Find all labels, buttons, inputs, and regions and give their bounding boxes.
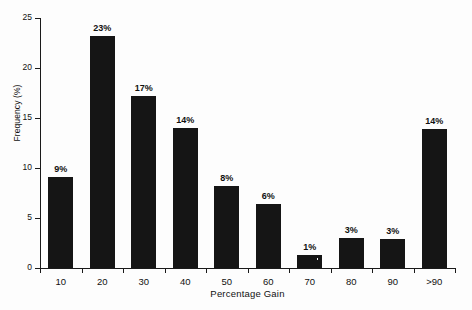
x-tick-label: 60 — [263, 276, 274, 287]
y-tick-label: 0 — [10, 262, 32, 273]
y-tick-label: 20 — [10, 62, 32, 73]
x-tick — [455, 268, 456, 273]
x-tick — [206, 268, 207, 273]
bar-value-label: 6% — [262, 191, 275, 201]
bar-value-label: 14% — [425, 116, 443, 126]
bar — [173, 128, 198, 268]
x-tick — [289, 268, 290, 273]
x-axis-title: Percentage Gain — [40, 288, 455, 299]
x-tick-label: >90 — [426, 276, 442, 287]
bar — [380, 239, 405, 268]
y-tick: 15 — [35, 118, 41, 119]
x-tick-label: 20 — [97, 276, 108, 287]
bar — [422, 129, 447, 268]
bar-value-label: 14% — [176, 115, 194, 125]
x-tick-label: 30 — [138, 276, 149, 287]
bar-value-label: 17% — [135, 83, 153, 93]
bar — [339, 238, 364, 268]
bar — [131, 96, 156, 268]
y-tick-label: 15 — [10, 112, 32, 123]
y-tick: 10 — [35, 168, 41, 169]
scan-speck — [317, 258, 319, 260]
y-tick-label: 10 — [10, 162, 32, 173]
x-tick-label: 40 — [180, 276, 191, 287]
x-tick — [40, 268, 41, 273]
bar-value-label: 9% — [54, 164, 67, 174]
x-tick — [331, 268, 332, 273]
y-tick: 5 — [35, 218, 41, 219]
bar-value-label: 1% — [303, 242, 316, 252]
bar-value-label: 3% — [345, 225, 358, 235]
y-tick: 20 — [35, 68, 41, 69]
bar — [48, 177, 73, 268]
x-tick — [82, 268, 83, 273]
y-tick-label: 5 — [10, 212, 32, 223]
y-tick: 25 — [35, 18, 41, 19]
x-tick-label: 50 — [221, 276, 232, 287]
x-tick — [123, 268, 124, 273]
x-tick-label: 90 — [387, 276, 398, 287]
bar — [214, 186, 239, 268]
x-tick — [372, 268, 373, 273]
bar — [256, 204, 281, 268]
plot-area: 0510152025 102030405060708090>90 9%23%17… — [40, 18, 455, 268]
bar-value-label: 23% — [93, 23, 111, 33]
bar-value-label: 3% — [386, 226, 399, 236]
y-axis-line — [40, 18, 41, 268]
x-tick-label: 70 — [304, 276, 315, 287]
x-tick — [165, 268, 166, 273]
x-tick-label: 80 — [346, 276, 357, 287]
x-tick-label: 10 — [55, 276, 66, 287]
bar-chart-figure: Frequency (%) 0510152025 102030405060708… — [0, 0, 472, 310]
bar — [90, 36, 115, 268]
y-tick-label: 25 — [10, 12, 32, 23]
x-tick — [248, 268, 249, 273]
bar-value-label: 8% — [220, 173, 233, 183]
bar — [297, 255, 322, 268]
x-tick — [414, 268, 415, 273]
